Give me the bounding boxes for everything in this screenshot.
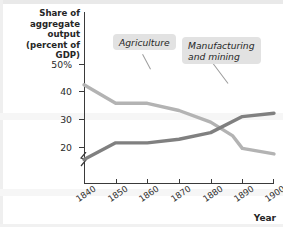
page-edge-bottom [0,224,283,227]
x-axis-title: Year [254,213,276,223]
y-tick-label-30: 30 [60,114,72,125]
x-tick-label-1890: 1890 [232,183,256,204]
series-callout-manufacturing: Manufacturing and mining [182,37,261,64]
series-callout-agriculture: Agriculture [113,34,176,50]
y-tick-label-40: 40 [60,86,72,97]
x-tick-label-1870: 1870 [169,183,193,204]
x-tick-label-1860: 1860 [137,183,161,204]
x-tick-label-1850: 1850 [106,183,130,204]
series-line-manufacturing [84,113,274,159]
y-tick-label-50: 50% [51,59,72,70]
page-edge-top [0,0,283,4]
x-tick-label-1840: 1840 [74,183,98,204]
x-tick-label-1900: 1900 [263,183,283,204]
x-tick-label-1880: 1880 [201,183,225,204]
y-tick-label-20: 20 [60,142,72,153]
y-axis-title: Share of aggregate output (percent of GD… [8,8,80,61]
chart-figure: Share of aggregate output (percent of GD… [0,0,283,227]
plot-area: 50% 40 30 20 1840 1850 1860 1870 1880 [84,12,274,184]
